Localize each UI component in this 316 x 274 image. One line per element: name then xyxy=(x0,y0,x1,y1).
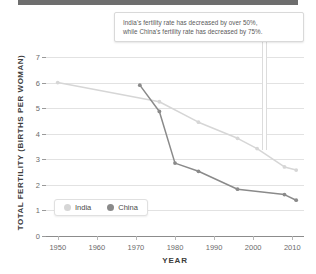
callout-pointer-line xyxy=(262,36,267,150)
fertility-rate-chart-figure: 01234567 TOTAL FERTILITY (BIRTHS PER WOM… xyxy=(0,0,316,274)
legend-label: China xyxy=(118,203,138,212)
data-point-china xyxy=(138,83,142,87)
data-point-india xyxy=(283,165,287,169)
legend-swatch-icon xyxy=(107,204,114,211)
data-point-india xyxy=(157,100,161,104)
legend-swatch-icon xyxy=(64,204,71,211)
data-point-india xyxy=(56,81,60,85)
data-point-china xyxy=(173,161,177,165)
data-point-india xyxy=(255,147,259,151)
legend-item-china: China xyxy=(107,203,138,212)
series-line-china xyxy=(140,85,296,200)
chart-legend: IndiaChina xyxy=(54,199,148,216)
data-point-india xyxy=(294,168,298,172)
data-point-china xyxy=(236,187,240,191)
data-point-china xyxy=(294,198,298,202)
data-point-india xyxy=(236,136,240,140)
legend-item-india: India xyxy=(64,203,91,212)
data-point-china xyxy=(157,110,161,114)
series-line-india xyxy=(58,83,296,170)
annotation-callout: India's fertility rate has decreased by … xyxy=(114,12,304,42)
data-point-india xyxy=(197,120,201,124)
legend-label: India xyxy=(75,203,91,212)
callout-line-1: India's fertility rate has decreased by … xyxy=(123,18,296,27)
callout-line-2: while China's fertility rate has decreas… xyxy=(123,27,296,36)
data-point-china xyxy=(197,169,201,173)
data-point-china xyxy=(283,193,287,197)
